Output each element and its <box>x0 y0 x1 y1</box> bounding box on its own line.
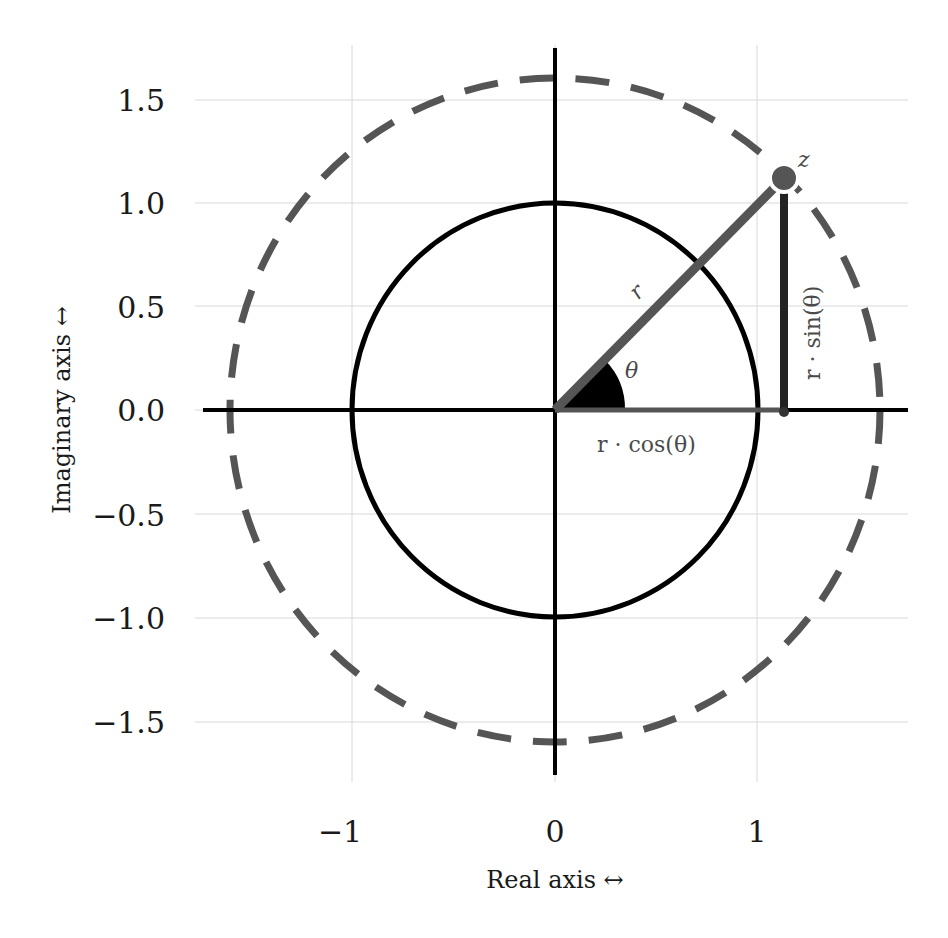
y-axis-title: Imaginary axis ↔ <box>48 306 76 514</box>
x-axis-title: Real axis ↔ <box>486 866 623 894</box>
label-r-cos-theta: r · cos(θ) <box>597 432 696 457</box>
y-tick-1.0: 1.0 <box>117 186 165 221</box>
x-tick-0: 0 <box>545 814 564 849</box>
point-z <box>770 164 798 192</box>
y-tick-1.5: 1.5 <box>117 83 165 118</box>
x-tick--1: −1 <box>318 814 362 849</box>
y-tick--1.0: −1.0 <box>92 601 165 636</box>
y-tick-0.5: 0.5 <box>117 290 165 325</box>
label-theta: θ <box>625 358 638 383</box>
y-tick--1.5: −1.5 <box>92 705 165 740</box>
y-tick-0.0: 0.0 <box>117 393 165 428</box>
x-tick-labels: −1 0 1 <box>318 814 767 849</box>
radius-line <box>555 184 778 410</box>
y-tick--0.5: −0.5 <box>92 498 165 533</box>
complex-plane-figure: z r θ r · cos(θ) r · sin(θ) 1.5 1.0 0.5 … <box>0 0 948 938</box>
label-z: z <box>797 147 810 172</box>
label-r-sin-theta: r · sin(θ) <box>800 286 825 380</box>
label-r: r <box>624 278 650 304</box>
sin-projection-foot <box>779 407 789 417</box>
x-tick-1: 1 <box>747 814 766 849</box>
y-tick-labels: 1.5 1.0 0.5 0.0 −0.5 −1.0 −1.5 <box>92 83 165 740</box>
